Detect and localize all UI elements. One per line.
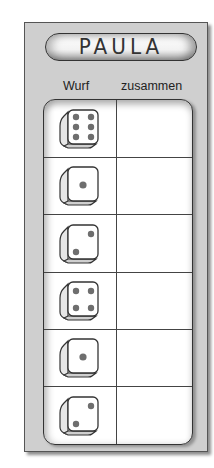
- die-one-icon: [58, 165, 102, 207]
- table-row: [44, 272, 192, 330]
- die-two-icon: [58, 223, 102, 265]
- header-zusammen: zusammen: [121, 79, 182, 93]
- table-row: [44, 329, 192, 387]
- wurf-cell: [44, 329, 116, 386]
- zusammen-cell[interactable]: [117, 387, 192, 444]
- die-two-icon: [58, 395, 102, 437]
- zusammen-cell[interactable]: [117, 157, 192, 214]
- score-card: PAULA Wurf zusammen: [24, 22, 208, 452]
- table-row: [44, 387, 192, 444]
- zusammen-cell[interactable]: [117, 272, 192, 329]
- wurf-cell: [44, 215, 116, 272]
- zusammen-cell[interactable]: [117, 329, 192, 386]
- wurf-cell: [44, 387, 116, 444]
- score-table: [43, 99, 193, 445]
- zusammen-cell[interactable]: [117, 100, 192, 157]
- die-six-icon: [58, 108, 102, 150]
- wurf-cell: [44, 100, 116, 157]
- zusammen-cell[interactable]: [117, 215, 192, 272]
- wurf-cell: [44, 272, 116, 329]
- player-name: PAULA: [79, 34, 163, 59]
- table-row: [44, 100, 192, 158]
- table-row: [44, 157, 192, 215]
- header-wurf: Wurf: [63, 79, 89, 93]
- table-row: [44, 215, 192, 273]
- wurf-cell: [44, 157, 116, 214]
- column-headers: Wurf zusammen: [25, 79, 207, 95]
- die-four-icon: [58, 280, 102, 322]
- name-plate: PAULA: [45, 33, 197, 61]
- die-one-icon: [58, 337, 102, 379]
